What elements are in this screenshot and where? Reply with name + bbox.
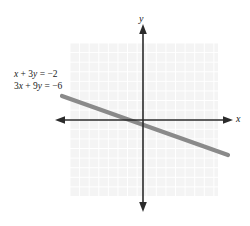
equation-line-2: 3x + 9y = −6 (14, 81, 62, 93)
y-axis-top-arrowhead (139, 24, 147, 34)
y-axis-bottom-arrowhead (139, 202, 147, 212)
y-axis-label: y (139, 14, 143, 24)
line-x-plus-3y-equals-neg2 (62, 96, 228, 155)
y-axis (139, 24, 147, 212)
plotted-line-group (62, 96, 228, 155)
equation-annotation-block: x + 3y = −2 3x + 9y = −6 (14, 69, 62, 92)
axes-and-line-layer (0, 0, 250, 226)
x-axis (55, 116, 233, 124)
x-axis-label: x (236, 114, 240, 124)
graph-figure: y x x + 3y = −2 3x + 9y = −6 (0, 0, 250, 226)
equation-line-1: x + 3y = −2 (14, 69, 62, 81)
x-axis-left-arrowhead (55, 116, 65, 124)
x-axis-right-arrowhead (223, 116, 233, 124)
